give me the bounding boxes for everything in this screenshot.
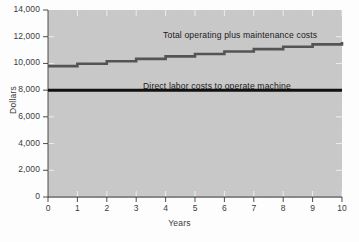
x-axis-title: Years (0, 218, 359, 228)
y-tick-label-0: 0 (0, 192, 40, 201)
x-tick-label-6: 6 (214, 204, 234, 213)
annotation-direct-labor-costs: Direct labor costs to operate machine (143, 81, 291, 91)
x-tick-label-8: 8 (273, 204, 293, 213)
chart-figure: 02,0004,0006,0008,00010,00012,00014,000 … (0, 0, 359, 242)
x-tick-label-5: 5 (185, 204, 205, 213)
annotation-total-operating-costs: Total operating plus maintenance costs (163, 30, 317, 40)
y-tick-label-1: 2,000 (0, 165, 40, 174)
y-tick-label-3: 6,000 (0, 112, 40, 121)
x-tick-label-7: 7 (244, 204, 264, 213)
x-tick-label-1: 1 (67, 204, 87, 213)
y-axis-title: Dollars (8, 70, 18, 130)
x-tick-label-0: 0 (38, 204, 58, 213)
x-tick-label-3: 3 (126, 204, 146, 213)
y-tick-label-4: 8,000 (0, 85, 40, 94)
x-tick-label-9: 9 (303, 204, 323, 213)
y-tick-label-2: 4,000 (0, 139, 40, 148)
x-tick-label-2: 2 (97, 204, 117, 213)
series-line-0 (48, 42, 342, 66)
y-tick-label-5: 10,000 (0, 58, 40, 67)
y-tick-label-6: 12,000 (0, 32, 40, 41)
x-tick-label-4: 4 (156, 204, 176, 213)
x-tick-label-10: 10 (332, 204, 352, 213)
y-tick-label-7: 14,000 (0, 5, 40, 14)
